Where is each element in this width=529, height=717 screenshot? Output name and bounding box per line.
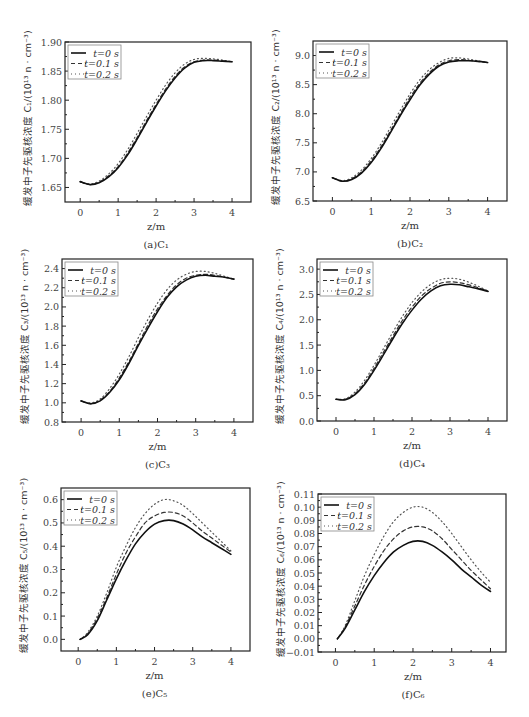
y-tick-label: 2.5	[299, 289, 314, 300]
series-line-solid	[332, 61, 487, 182]
x-tick-label: 3	[190, 656, 196, 667]
legend-label: t=0.2 s	[80, 515, 115, 526]
x-tick-label: 3	[191, 207, 197, 218]
x-axis-label: z/m	[401, 220, 420, 231]
x-tick-label: 1	[113, 656, 119, 667]
y-tick-label: 0.04	[294, 581, 315, 592]
y-tick-label: 0.05	[294, 568, 315, 579]
y-tick-label: 0.11	[294, 489, 315, 500]
y-tick-label: 0.06	[294, 554, 315, 565]
legend-label: t=0.1 s	[80, 504, 115, 515]
y-tick-label: 7.5	[295, 137, 310, 148]
legend-label: t=0 s	[90, 265, 116, 276]
legend-label: t=0.1 s	[337, 510, 372, 521]
y-tick-label: 1.5	[299, 340, 314, 351]
x-tick-label: 2	[154, 427, 160, 438]
legend: t=0 st=0.1 st=0.2 s	[320, 262, 373, 297]
chart-panel-f: 01234−0.010.000.010.020.030.040.050.060.…	[275, 481, 506, 700]
y-tick-label: 2.0	[44, 301, 59, 312]
y-tick-label: 8.5	[295, 79, 310, 90]
x-tick-label: 3	[446, 206, 452, 217]
x-tick-label: 1	[371, 426, 377, 437]
y-tick-label: 0.6	[43, 494, 58, 505]
y-tick-label: 0.02	[294, 607, 315, 618]
panel-caption: (f)C₆	[401, 689, 424, 700]
x-tick-label: 4	[228, 656, 234, 667]
x-tick-label: 2	[153, 207, 159, 218]
y-tick-label: 0.2	[43, 587, 58, 598]
x-tick-label: 3	[449, 657, 455, 668]
x-tick-label: 2	[152, 656, 158, 667]
y-tick-label: 0.01	[294, 620, 315, 631]
y-tick-label: 1.0	[44, 397, 59, 408]
y-tick-label: 1.6	[44, 340, 59, 351]
chart-panel-c: 012340.81.01.21.41.61.82.02.22.4z/m(c)C₃…	[19, 249, 253, 470]
y-axis-label: 缓发中子先驱核浓度 C₃/(10¹³ n · cm⁻³)	[19, 249, 30, 424]
x-tick-label: 3	[193, 427, 199, 438]
panel-caption: (a)C₁	[143, 239, 168, 250]
y-tick-label: 2.2	[44, 282, 59, 293]
x-axis-label: z/m	[147, 221, 166, 232]
y-tick-label: 1.0	[299, 365, 314, 376]
legend: t=0 st=0.1 st=0.2 s	[65, 262, 118, 297]
y-tick-label: −0.01	[286, 647, 315, 658]
y-tick-label: 1.85	[41, 66, 62, 77]
y-tick-label: 0.1	[43, 611, 58, 622]
y-tick-label: 0.8	[44, 417, 59, 428]
y-tick-label: 0.0	[299, 416, 314, 427]
y-axis-label: 缓发中子先驱核浓度 C₆/(10¹³ n · cm⁻³)	[275, 481, 286, 656]
legend-label: t=0.1 s	[81, 275, 116, 286]
legend-label: t=0 s	[89, 494, 115, 505]
chart-panel-a: 012341.651.701.751.801.851.90z/m(a)C₁缓发中…	[22, 30, 251, 250]
panels: 012341.651.701.751.801.851.90z/m(a)C₁缓发中…	[18, 29, 507, 700]
chart-panel-b: 012346.57.07.58.08.59.0z/m(b)C₂缓发中子先驱核浓度…	[270, 29, 507, 249]
x-tick-label: 4	[485, 426, 491, 437]
legend: t=0 st=0.1 st=0.2 s	[321, 497, 374, 532]
legend: t=0 st=0.1 st=0.2 s	[316, 44, 369, 79]
x-tick-label: 1	[371, 657, 377, 668]
x-tick-label: 0	[77, 207, 83, 218]
y-tick-label: 1.8	[44, 321, 59, 332]
y-tick-label: 1.90	[41, 37, 62, 48]
legend-label: t=0 s	[93, 48, 119, 59]
legend-label: t=0 s	[345, 265, 371, 276]
x-tick-label: 1	[116, 427, 122, 438]
x-tick-label: 1	[115, 207, 121, 218]
x-tick-label: 2	[407, 206, 413, 217]
legend-label: t=0.1 s	[84, 58, 119, 69]
x-tick-label: 2	[410, 657, 416, 668]
y-tick-label: 0.5	[43, 517, 58, 528]
legend-label: t=0 s	[346, 500, 372, 511]
figure-grid: 012341.651.701.751.801.851.90z/m(a)C₁缓发中…	[0, 0, 529, 717]
y-tick-label: 0.3	[43, 564, 58, 575]
y-axis-label: 缓发中子先驱核浓度 C₄/(10¹³ n · cm⁻³)	[274, 248, 285, 423]
x-tick-label: 4	[229, 207, 235, 218]
y-tick-label: 0.10	[294, 502, 315, 513]
y-tick-label: 7.0	[295, 166, 310, 177]
y-tick-label: 0.09	[294, 515, 315, 526]
x-tick-label: 0	[78, 427, 84, 438]
series-line-dashed	[80, 512, 231, 639]
legend-label: t=0.2 s	[81, 286, 116, 297]
x-tick-label: 3	[447, 426, 453, 437]
legend-label: t=0.2 s	[337, 521, 372, 532]
x-tick-label: 1	[368, 206, 374, 217]
legend-label: t=0.2 s	[332, 68, 367, 79]
x-axis-label: z/m	[403, 440, 422, 451]
x-tick-label: 2	[409, 426, 415, 437]
x-tick-label: 4	[487, 657, 493, 668]
legend-label: t=0.1 s	[336, 275, 371, 286]
y-tick-label: 3.0	[299, 264, 314, 275]
y-tick-label: 8.0	[295, 108, 310, 119]
legend: t=0 st=0.1 st=0.2 s	[68, 45, 121, 80]
x-tick-label: 4	[231, 427, 237, 438]
x-axis-label: z/m	[148, 441, 167, 452]
series-line-dashed	[337, 526, 490, 638]
y-tick-label: 1.80	[41, 95, 62, 106]
chart-panel-d: 012340.00.51.01.52.02.53.0z/m(d)C₄缓发中子先驱…	[274, 248, 507, 469]
y-tick-label: 0.03	[294, 594, 315, 605]
y-tick-label: 2.0	[299, 314, 314, 325]
y-tick-label: 6.5	[295, 196, 310, 207]
y-axis-label: 缓发中子先驱核浓度 C₅/(10¹³ n · cm⁻³)	[18, 478, 29, 653]
y-axis-label: 缓发中子先驱核浓度 C₁/(10¹³ n · cm⁻³)	[22, 30, 33, 205]
